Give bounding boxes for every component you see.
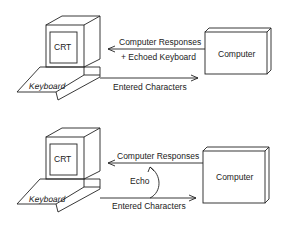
diagram-drawing xyxy=(0,0,292,226)
arrow-label-entered-top: Entered Characters xyxy=(113,83,187,92)
echo-label: Echo xyxy=(130,177,149,186)
computer-label-top: Computer xyxy=(218,50,255,59)
arrow-label-responses-top: Computer Responses xyxy=(119,38,201,47)
computer-label-bottom: Computer xyxy=(216,173,253,182)
keyboard-label-bottom: Keyboard xyxy=(28,195,66,204)
crt-label-top: CRT xyxy=(54,43,71,52)
keyboard-label-top: Keyboard xyxy=(28,82,66,91)
crt-label-bottom: CRT xyxy=(54,155,71,164)
arrow-label-entered-bottom: Entered Characters xyxy=(112,202,186,211)
arrow-label-responses-bottom: Computer Responses xyxy=(117,152,199,161)
arrow-label-echoed-keyboard: + Echoed Keyboard xyxy=(121,53,196,62)
